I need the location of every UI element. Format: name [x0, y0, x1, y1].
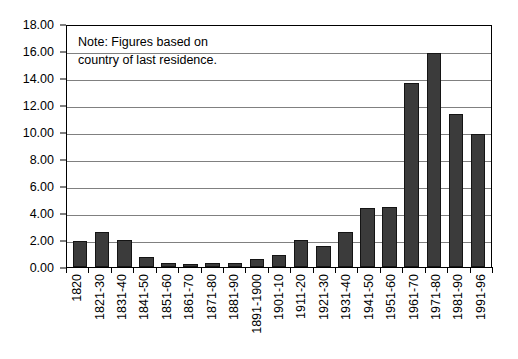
x-axis-label-slot: 1931-40: [335, 274, 357, 359]
bar-slot: [356, 26, 378, 267]
x-axis-label-slot: 1941-50: [357, 274, 379, 359]
x-axis-tick: [402, 267, 403, 273]
x-axis-tick-label: 1941-50: [362, 274, 375, 320]
y-axis-tick-label: 0.00: [30, 262, 54, 275]
x-axis-tick: [425, 267, 426, 273]
x-axis-tick-label: 1831-40: [116, 274, 129, 320]
bar[interactable]: [272, 255, 287, 267]
bar-slot: [401, 26, 423, 267]
x-axis-tick-label: 1991-96: [475, 274, 488, 320]
x-axis-label-slot: 1841-50: [133, 274, 155, 359]
chart-note: Note: Figures based on country of last r…: [78, 33, 217, 69]
x-axis-tick-label: 1911-20: [295, 274, 308, 319]
bar-slot: [246, 26, 268, 267]
x-axis-label-slot: 1911-20: [290, 274, 312, 359]
x-axis-label-slot: 1831-40: [111, 274, 133, 359]
x-axis-tick-label: 1961-70: [407, 274, 420, 320]
bar-slot: [467, 26, 489, 267]
x-axis-tick: [290, 267, 291, 273]
bar[interactable]: [404, 83, 419, 267]
x-axis-tick-label: 1931-40: [340, 274, 353, 320]
x-axis-label-slot: 1971-80: [425, 274, 447, 359]
x-axis-tick: [268, 267, 269, 273]
x-axis-label-slot: 1820: [66, 274, 88, 359]
y-axis-tick-label: 6.00: [30, 181, 54, 194]
x-axis-tick: [313, 267, 314, 273]
x-axis-label-slot: 1961-70: [402, 274, 424, 359]
x-axis-tick: [223, 267, 224, 273]
bar[interactable]: [73, 241, 88, 267]
bar-slot: [312, 26, 334, 267]
x-axis-label-slot: 1891-1900: [245, 274, 267, 359]
bar[interactable]: [95, 232, 110, 267]
x-axis-tick: [88, 267, 89, 273]
x-axis-tick: [335, 267, 336, 273]
bar-slot: [445, 26, 467, 267]
x-axis-tick: [111, 267, 112, 273]
x-axis-tick: [245, 267, 246, 273]
y-axis-labels: 18.0016.0014.0012.0010.008.006.004.002.0…: [0, 0, 62, 359]
x-axis-tick: [492, 267, 493, 273]
x-axis-tick-label: 1901-10: [273, 274, 286, 320]
y-axis-tick-label: 14.00: [23, 73, 54, 86]
x-axis-label-slot: 1991-96: [470, 274, 492, 359]
x-axis-tick: [357, 267, 358, 273]
bar[interactable]: [360, 208, 375, 267]
x-axis-tick-label: 1851-60: [161, 274, 174, 320]
y-axis-tick-label: 18.00: [23, 19, 54, 32]
y-axis-tick-label: 16.00: [23, 46, 54, 59]
x-axis-tick-label: 1841-50: [138, 274, 151, 320]
bar[interactable]: [449, 114, 464, 267]
y-axis-tick-label: 2.00: [30, 235, 54, 248]
bar[interactable]: [338, 232, 353, 267]
bar-slot: [334, 26, 356, 267]
bar[interactable]: [427, 53, 442, 267]
bar-slot: [290, 26, 312, 267]
x-axis-tick-label: 1981-90: [452, 274, 465, 320]
x-axis-tick: [178, 267, 179, 273]
bar[interactable]: [471, 134, 486, 267]
x-axis-tick-label: 1921-30: [318, 274, 331, 320]
x-axis-label-slot: 1951-60: [380, 274, 402, 359]
bar[interactable]: [382, 207, 397, 267]
x-axis-label-slot: 1921-30: [313, 274, 335, 359]
bar[interactable]: [117, 240, 132, 267]
x-axis-tick-label: 1891-1900: [250, 274, 263, 334]
x-axis-tick-label: 1881-90: [228, 274, 241, 320]
x-axis-label-slot: 1901-10: [268, 274, 290, 359]
bar[interactable]: [250, 259, 265, 267]
x-axis-label-slot: 1871-80: [201, 274, 223, 359]
x-axis-label-slot: 1821-30: [88, 274, 110, 359]
y-axis-tick-label: 8.00: [30, 154, 54, 167]
x-axis-label-slot: 1881-90: [223, 274, 245, 359]
bar-slot: [379, 26, 401, 267]
y-axis-tick-label: 12.00: [23, 100, 54, 113]
x-axis-tick-label: 1821-30: [93, 274, 106, 320]
x-axis-tick: [133, 267, 134, 273]
bar[interactable]: [316, 246, 331, 267]
x-axis-tick-label: 1861-70: [183, 274, 196, 320]
y-axis-tick-label: 10.00: [23, 127, 54, 140]
bar-slot: [423, 26, 445, 267]
bar[interactable]: [294, 240, 309, 267]
x-axis-tick: [380, 267, 381, 273]
bar-chart: 18.0016.0014.0012.0010.008.006.004.002.0…: [0, 0, 518, 359]
x-axis-tick: [470, 267, 471, 273]
y-axis-tick-label: 4.00: [30, 208, 54, 221]
x-axis-tick-label: 1820: [71, 274, 84, 302]
bar[interactable]: [139, 257, 154, 267]
bar-slot: [224, 26, 246, 267]
bar-slot: [268, 26, 290, 267]
x-axis-tick-label: 1951-60: [385, 274, 398, 320]
x-axis-labels: 18201821-301831-401841-501851-601861-701…: [66, 274, 492, 359]
x-axis-label-slot: 1851-60: [156, 274, 178, 359]
x-axis-tick-label: 1871-80: [205, 274, 218, 320]
x-axis-tick-label: 1971-80: [430, 274, 443, 320]
x-axis-label-slot: 1981-90: [447, 274, 469, 359]
x-axis-tick: [201, 267, 202, 273]
x-axis-tick: [66, 267, 67, 273]
x-axis-tick: [156, 267, 157, 273]
x-axis-label-slot: 1861-70: [178, 274, 200, 359]
x-axis-tick: [447, 267, 448, 273]
